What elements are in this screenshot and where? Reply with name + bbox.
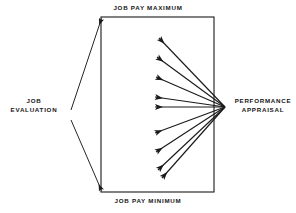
label-job-evaluation-line2: EVALUATION [2,106,66,115]
label-performance-appraisal: PERFORMANCE APPRAISAL [232,97,294,114]
job-evaluation-connectors [71,19,102,191]
label-job-pay-minimum: JOB PAY MINIMUM [0,197,296,206]
label-job-evaluation: JOB EVALUATION [2,97,66,114]
label-performance-appraisal-line1: PERFORMANCE [232,97,294,106]
label-performance-appraisal-line2: APPRAISAL [232,106,294,115]
job-evaluation-lower-arrow [71,120,102,191]
appraisal-arrow-1 [159,38,225,107]
pay-range-box [101,17,214,192]
appraisal-arrow-8 [158,107,225,170]
label-job-pay-maximum: JOB PAY MAXIMUM [0,4,296,13]
job-evaluation-upper-arrow [71,19,102,111]
label-job-evaluation-line1: JOB [2,97,66,106]
diagram-canvas: JOB PAY MAXIMUM JOB PAY MINIMUM JOB EVAL… [0,0,296,213]
